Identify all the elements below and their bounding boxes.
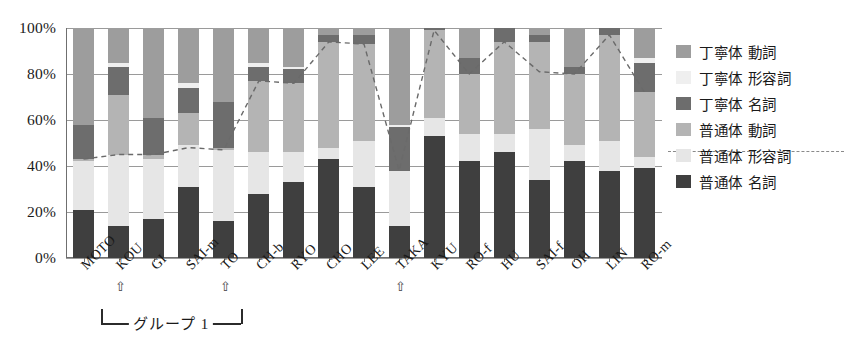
legend-label: 丁寧体 形容詞: [699, 67, 791, 88]
bar-segment-plain_verb: [459, 74, 480, 134]
legend-swatch: [676, 175, 691, 188]
legend-item-2: 丁寧体 名詞: [676, 90, 844, 116]
bar-segment-polite_noun: [178, 88, 199, 113]
bar-segment-polite_verb: [389, 28, 410, 125]
bar-segment-plain_verb: [529, 42, 550, 129]
bar-KYU: [424, 28, 445, 258]
legend-label: 普通体 形容詞: [699, 145, 791, 166]
y-tick-label: 100%: [19, 19, 56, 37]
bar-segment-polite_noun: [389, 127, 410, 171]
bar-segment-plain_adj: [108, 155, 129, 226]
bar-segment-plain_adj: [529, 129, 550, 180]
bar-segment-plain_adj: [248, 152, 269, 193]
bar-segment-plain_verb: [213, 148, 234, 150]
bar-SAI-m: [178, 28, 199, 258]
bar-segment-polite_adj: [248, 63, 269, 68]
bar-RO-f: [459, 28, 480, 258]
bar-CH-b: [248, 28, 269, 258]
legend-swatch: [676, 97, 691, 110]
bar-segment-polite_verb: [248, 28, 269, 63]
bar-segment-plain_adj: [634, 157, 655, 169]
bar-segment-plain_verb: [73, 159, 94, 161]
plot-area: [66, 28, 662, 258]
bar-segment-polite_noun: [494, 28, 515, 42]
legend-swatch: [676, 123, 691, 136]
bar-segment-plain_noun: [494, 152, 515, 258]
bar-MOTO: [73, 28, 94, 258]
bar-segment-plain_adj: [318, 148, 339, 160]
legend-label: 丁寧体 名詞: [699, 93, 777, 114]
bar-segment-polite_verb: [353, 28, 374, 35]
bar-segment-plain_adj: [213, 150, 234, 221]
y-tick-label: 0%: [35, 249, 56, 267]
bar-segment-plain_verb: [283, 83, 304, 152]
bar-segment-polite_noun: [283, 69, 304, 83]
bar-segment-plain_noun: [634, 168, 655, 258]
bar-segment-plain_adj: [424, 118, 445, 136]
up-arrow-marker-TO: ⇧: [220, 280, 231, 293]
y-tick-label: 80%: [27, 65, 56, 83]
legend-label: 普通体 名詞: [699, 171, 777, 192]
legend-swatch: [676, 149, 691, 162]
legend-item-4: 普通体 形容詞: [676, 142, 844, 168]
bar-segment-plain_noun: [318, 159, 339, 258]
legend-label: 丁寧体 動詞: [699, 41, 777, 62]
bar-segment-polite_adj: [634, 58, 655, 63]
y-tick-label: 20%: [27, 203, 56, 221]
bar-segment-polite_noun: [599, 28, 620, 35]
bar-segment-plain_noun: [599, 171, 620, 258]
bar-RO-m: [634, 28, 655, 258]
bar-segment-plain_adj: [459, 134, 480, 162]
bar-segment-plain_adj: [564, 145, 585, 161]
bar-segment-polite_verb: [178, 28, 199, 83]
bar-segment-polite_verb: [108, 28, 129, 63]
bar-KOU: [108, 28, 129, 258]
bar-segment-polite_adj: [108, 63, 129, 68]
bar-segment-polite_noun: [634, 63, 655, 93]
bar-segment-polite_noun: [459, 58, 480, 74]
bar-segment-plain_noun: [283, 182, 304, 258]
bar-TAKA: [389, 28, 410, 258]
bar-segment-plain_verb: [108, 95, 129, 155]
legend-swatch: [676, 45, 691, 58]
bar-segment-polite_verb: [459, 28, 480, 58]
bar-segment-plain_verb: [318, 42, 339, 148]
bar-SAI-f: [529, 28, 550, 258]
bar-segment-plain_adj: [353, 141, 374, 187]
bar-segment-polite_verb: [283, 28, 304, 67]
bar-segment-plain_adj: [73, 161, 94, 209]
bar-segment-plain_noun: [564, 161, 585, 258]
bar-LEE: [353, 28, 374, 258]
bar-OH: [564, 28, 585, 258]
bar-segment-plain_verb: [634, 92, 655, 156]
bar-segment-polite_verb: [318, 28, 339, 35]
bar-GI: [143, 28, 164, 258]
bar-segment-polite_noun: [353, 35, 374, 44]
legend-item-1: 丁寧体 形容詞: [676, 64, 844, 90]
bar-segment-plain_adj: [178, 145, 199, 186]
y-axis-tick-labels: 0%20%40%60%80%100%: [0, 28, 60, 258]
bar-segment-plain_noun: [143, 219, 164, 258]
bar-HU: [494, 28, 515, 258]
y-tick-label: 40%: [27, 157, 56, 175]
legend-item-0: 丁寧体 動詞: [676, 38, 844, 64]
legend-label: 普通体 動詞: [699, 119, 777, 140]
bar-segment-plain_noun: [529, 180, 550, 258]
legend-swatch: [676, 71, 691, 84]
bracket-left-tick: [101, 309, 103, 324]
bar-segment-polite_noun: [143, 118, 164, 155]
bar-segment-polite_noun: [213, 102, 234, 148]
group-bracket: グループ 1: [66, 305, 366, 345]
up-arrow-marker-KOU: ⇧: [115, 280, 126, 293]
legend-item-3: 普通体 動詞: [676, 116, 844, 142]
bar-segment-polite_noun: [248, 67, 269, 81]
y-tick-label: 60%: [27, 111, 56, 129]
bar-segment-plain_adj: [283, 152, 304, 182]
bar-segment-plain_adj: [389, 171, 410, 226]
bar-segment-polite_adj: [178, 83, 199, 88]
bar-segment-plain_verb: [178, 113, 199, 145]
bracket-right-tick: [241, 309, 243, 324]
bar-segment-polite_adj: [389, 125, 410, 127]
up-arrow-marker-TAKA: ⇧: [395, 280, 406, 293]
y-axis-line: [66, 28, 67, 258]
